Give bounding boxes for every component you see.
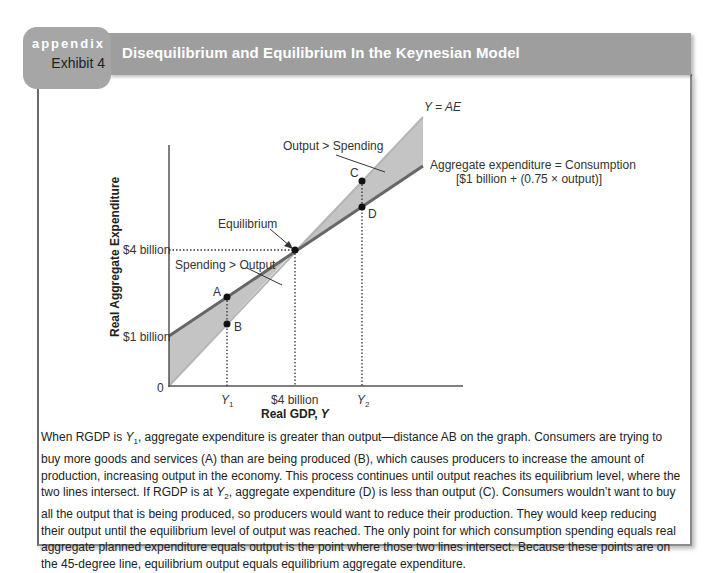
line45-label: Y = AE	[424, 100, 462, 114]
caption-y2: Y	[216, 485, 224, 499]
x-tick-y1: Y1	[221, 393, 234, 409]
y-axis-label: Real Aggregate Expenditure	[108, 176, 122, 337]
y-tick-4-billion: $4 billion	[123, 243, 170, 257]
x-axis-label: Real GDP, Y	[261, 407, 330, 421]
equilibrium-label: Equilibrium	[218, 217, 277, 231]
output-gt-spending-label: Output > Spending	[283, 139, 383, 153]
equilibrium-marker	[292, 247, 299, 254]
ae-label-line2: [$1 billion + (0.75 × output)]	[456, 172, 602, 186]
point-c-marker	[359, 178, 366, 185]
point-b-marker	[224, 321, 231, 328]
spending-gt-output-label: Spending > Output	[175, 258, 276, 272]
point-d-marker	[359, 204, 366, 211]
point-a-marker	[224, 294, 231, 301]
x-tick-4-billion: $4 billion	[271, 393, 318, 407]
origin-label: 0	[157, 381, 164, 395]
point-a-label: A	[213, 285, 221, 299]
point-c-label: C	[350, 166, 359, 180]
output-gt-spending-pointer	[336, 155, 385, 172]
point-d-label: D	[368, 207, 377, 221]
ae-label-line1: Aggregate expenditure = Consumption	[430, 158, 636, 172]
y-tick-1-billion: $1 billion	[123, 330, 170, 344]
exhibit-caption: When RGDP is Y1, aggregate expenditure i…	[41, 429, 681, 573]
keynesian-chart: A B C D Equilibrium Spending > Output Ou…	[0, 0, 714, 430]
point-b-label: B	[234, 320, 242, 334]
caption-text-1: When RGDP is	[41, 430, 125, 444]
x-tick-y2: Y2	[357, 393, 370, 409]
